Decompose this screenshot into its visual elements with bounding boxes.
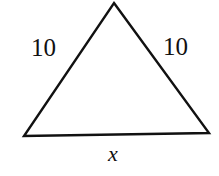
right-side-length-label: 10	[163, 34, 188, 59]
geometry-figure: 10 10 x	[0, 0, 219, 176]
base-side-length-label: x	[108, 143, 118, 165]
left-side-length-label: 10	[31, 35, 56, 60]
triangle-outline	[24, 3, 209, 136]
